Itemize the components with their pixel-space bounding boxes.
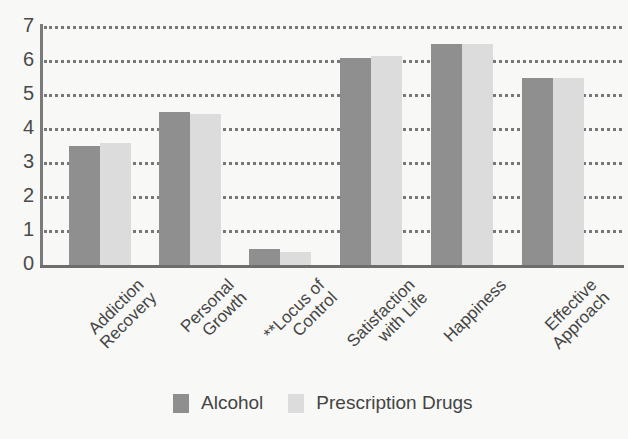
bar-prescription-drugs xyxy=(190,114,221,265)
bar-prescription-drugs xyxy=(371,56,402,265)
legend-item-alcohol: Alcohol xyxy=(173,392,263,414)
bar-prescription-drugs xyxy=(100,143,131,265)
bar-alcohol xyxy=(249,249,280,265)
x-axis xyxy=(40,265,624,268)
bar-prescription-drugs xyxy=(280,252,311,265)
y-tick-label: 6 xyxy=(14,48,34,71)
y-tick-label: 7 xyxy=(14,14,34,37)
legend-swatch-prescription-drugs xyxy=(288,394,304,413)
bar-alcohol xyxy=(522,78,553,265)
bar-alcohol xyxy=(69,146,100,265)
x-tick-label: **Locus ofControl xyxy=(260,276,340,356)
y-tick-label: 5 xyxy=(14,82,34,105)
bar-prescription-drugs xyxy=(553,78,584,265)
bar-prescription-drugs xyxy=(462,44,493,265)
legend-label: Prescription Drugs xyxy=(316,392,472,414)
y-tick-label: 3 xyxy=(14,150,34,173)
y-tick-label: 0 xyxy=(14,252,34,275)
legend-swatch-alcohol xyxy=(173,394,189,413)
x-tick-label: EffectiveApproach xyxy=(537,276,614,353)
legend: Alcohol Prescription Drugs xyxy=(173,392,498,414)
y-tick-label: 1 xyxy=(14,218,34,241)
bar-alcohol xyxy=(340,58,371,265)
x-tick-label: Satisfactionwith Life xyxy=(344,276,432,364)
legend-item-prescription-drugs: Prescription Drugs xyxy=(288,392,472,414)
x-tick-label: Happiness xyxy=(440,276,510,346)
gridline xyxy=(44,60,622,63)
y-tick-label: 2 xyxy=(14,184,34,207)
gridline xyxy=(44,26,622,29)
bar-chart: 01234567 AddictionRecoveryPersonalGrowth… xyxy=(0,0,628,439)
y-tick-label: 4 xyxy=(14,116,34,139)
x-tick-label: PersonalGrowth xyxy=(178,276,251,349)
legend-label: Alcohol xyxy=(201,392,263,414)
x-tick-label: AddictionRecovery xyxy=(84,276,160,352)
bar-alcohol xyxy=(159,112,190,265)
y-axis xyxy=(40,24,43,267)
bar-alcohol xyxy=(431,44,462,265)
